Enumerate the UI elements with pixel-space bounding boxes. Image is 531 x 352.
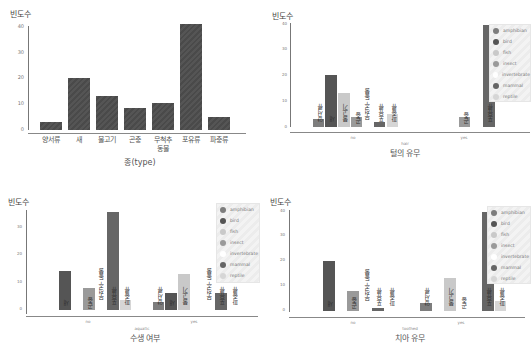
bar-label: 파충류 <box>388 288 395 306</box>
bar-label: 파충류 <box>498 288 505 306</box>
legend-invertebrate: invertebrate <box>488 251 530 262</box>
y-axis-label: 빈도수 <box>270 196 291 207</box>
legend: amphibian bird fish insect invertebrate … <box>487 206 531 284</box>
legend-bird: bird <box>217 215 259 226</box>
chart-aquatic: 빈도수 0 10 20 30 새 곤충 무척추 동물 포유류 파충류 양서류 새… <box>0 176 265 352</box>
chart-hair: 빈도수 0 10 20 30 40 양서류 새 물고기 곤충 무척추 동물 포유… <box>265 0 530 176</box>
bar-label: 양서류 <box>423 288 430 306</box>
y-tick: 40 <box>271 208 285 213</box>
x-axis <box>289 317 525 318</box>
legend-bird: bird <box>488 218 530 229</box>
y-tick: 30 <box>271 232 285 237</box>
legend-mammal: mammal <box>217 259 259 270</box>
bar-label: 물고기 <box>447 288 454 306</box>
legend-amphibian: amphibian <box>490 25 530 36</box>
y-tick: 10 <box>10 100 24 106</box>
chart-title: 수생 여부 <box>115 332 175 343</box>
bar-label: 곤충 <box>86 297 93 309</box>
bar-label: 파충류 <box>123 287 130 305</box>
y-axis <box>28 26 29 130</box>
legend-mammal: mammal <box>488 262 530 273</box>
legend-fish: fish <box>488 229 530 240</box>
bar-label: 파충류 <box>390 104 397 122</box>
y-tick: 20 <box>273 72 287 77</box>
bar-label: 물고기 <box>341 104 348 122</box>
legend-insect: insect <box>217 237 259 248</box>
bar-label: 새 <box>62 300 69 306</box>
bar-reptile <box>208 117 230 130</box>
bar-label: 무척추 동물 <box>205 268 212 300</box>
legend-insect: insect <box>488 240 530 251</box>
chart-toothed: 빈도수 0 10 20 30 40 새 곤충 무척추 동물 포유류 파충류 양서… <box>265 176 530 352</box>
x-tick-yes: yes <box>453 320 469 325</box>
x-axis-sublabel: toothed <box>398 326 422 331</box>
x-axis <box>26 316 258 317</box>
legend-reptile: reptile <box>217 270 259 281</box>
legend-reptile: reptile <box>490 91 530 102</box>
legend-amphibian: amphibian <box>217 204 259 215</box>
bar-label: 포유류 <box>377 104 384 122</box>
x-tick-label: 새 <box>64 136 94 144</box>
x-axis <box>290 132 530 133</box>
bar-label: 포유류 <box>110 287 117 305</box>
y-tick: 0 <box>10 126 24 132</box>
bar-label: 포유류 <box>218 287 225 305</box>
x-tick-label: 포유류 <box>176 136 206 144</box>
x-tick-label: 물고기 <box>92 136 122 144</box>
y-tick: 30 <box>273 46 287 51</box>
x-axis-sublabel: aquatic <box>132 326 152 331</box>
bar-label: 무척추 동물 <box>363 88 370 120</box>
chart-title: 털의 유무 <box>375 147 435 158</box>
bar-label: 곤충 <box>350 297 357 309</box>
x-tick-no: no <box>80 319 96 324</box>
x-axis <box>28 133 246 134</box>
bar-label: 무척추 동물 <box>97 268 104 300</box>
x-axis-sublabel: hair <box>395 141 415 146</box>
y-tick: 30 <box>8 224 22 229</box>
legend: amphibian bird fish insect invertebrate … <box>216 203 260 283</box>
bar-label: 포유류 <box>375 288 382 306</box>
bar-fish <box>96 96 118 130</box>
bar-label: 곤충 <box>460 297 467 309</box>
bar-label: 포유류 <box>485 288 492 306</box>
y-axis-label: 빈도수 <box>272 10 293 21</box>
y-tick: 10 <box>8 279 22 284</box>
legend-amphibian: amphibian <box>488 207 530 218</box>
x-tick-label: 양서류 <box>36 136 66 144</box>
legend-fish: fish <box>217 226 259 237</box>
x-tick-yes: yes <box>456 135 472 140</box>
x-tick-no: no <box>345 320 361 325</box>
x-tick-label: 파충류 <box>204 136 234 144</box>
x-tick-no: no <box>345 135 361 140</box>
y-tick: 30 <box>10 49 24 55</box>
legend-invertebrate: invertebrate <box>490 69 530 80</box>
y-axis <box>26 210 27 314</box>
bar-invertebrate <box>152 103 174 130</box>
y-tick: 20 <box>10 74 24 80</box>
x-tick-label: 곤충 <box>120 136 150 144</box>
y-tick: 0 <box>8 306 22 311</box>
bar-label: 곤충 <box>354 112 361 124</box>
x-tick-yes: yes <box>186 319 202 324</box>
legend-invertebrate: invertebrate <box>217 248 259 259</box>
x-tick-label: 동물 <box>148 145 178 153</box>
legend-insect: insect <box>490 58 530 69</box>
y-axis-label: 빈도수 <box>10 8 31 19</box>
legend-reptile: reptile <box>488 273 530 284</box>
y-tick: 10 <box>271 282 285 287</box>
bar-label: 곤충 <box>462 112 469 124</box>
bar-insect <box>124 108 146 130</box>
legend-fish: fish <box>490 47 530 58</box>
chart-type-frequency: 빈도수 0 10 20 30 40 양서류 새 물고기 곤충 무척추 동물 포유… <box>0 0 265 176</box>
y-axis <box>289 210 290 312</box>
chart-title: 치아 유무 <box>380 332 440 343</box>
y-tick: 20 <box>271 257 285 262</box>
legend-mammal: mammal <box>490 80 530 91</box>
bar-label: 포유류 <box>486 104 493 122</box>
bar-label: 파충류 <box>231 287 238 305</box>
y-tick: 40 <box>273 21 287 26</box>
y-axis <box>290 23 291 127</box>
bar-label: 새 <box>326 301 333 307</box>
x-axis-title: 종(type) <box>110 156 170 167</box>
y-tick: 0 <box>273 124 287 129</box>
